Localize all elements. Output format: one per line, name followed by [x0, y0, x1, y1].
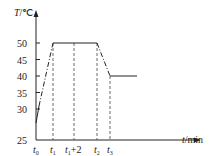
xtick-t1: t1 — [50, 144, 56, 156]
vertical-guides — [53, 43, 110, 140]
ytick-40: 40 — [17, 71, 27, 82]
ytick-25: 25 — [17, 135, 27, 146]
x-axis-label: t/min — [182, 134, 203, 145]
ytick-45: 45 — [17, 55, 27, 66]
y-ticks: 50 45 40 35 30 25 — [17, 38, 40, 146]
y-axis-arrow-icon — [34, 10, 39, 17]
xtick-t1-plus-2: t1+2 — [65, 144, 81, 156]
ytick-30: 30 — [17, 104, 27, 115]
xtick-t3: t3 — [107, 144, 113, 156]
x-ticks: t0 t1 t1+2 t2 t3 — [33, 144, 113, 156]
temperature-series — [36, 43, 137, 123]
xtick-t0: t0 — [33, 144, 39, 156]
xtick-t2: t2 — [94, 144, 100, 156]
ytick-50: 50 — [17, 38, 27, 49]
temperature-time-chart: T/℃ 50 45 40 35 30 25 t0 t1 t1+2 t2 t3 — [0, 0, 217, 156]
ytick-35: 35 — [17, 88, 27, 99]
y-axis-label: T/℃ — [14, 7, 33, 18]
